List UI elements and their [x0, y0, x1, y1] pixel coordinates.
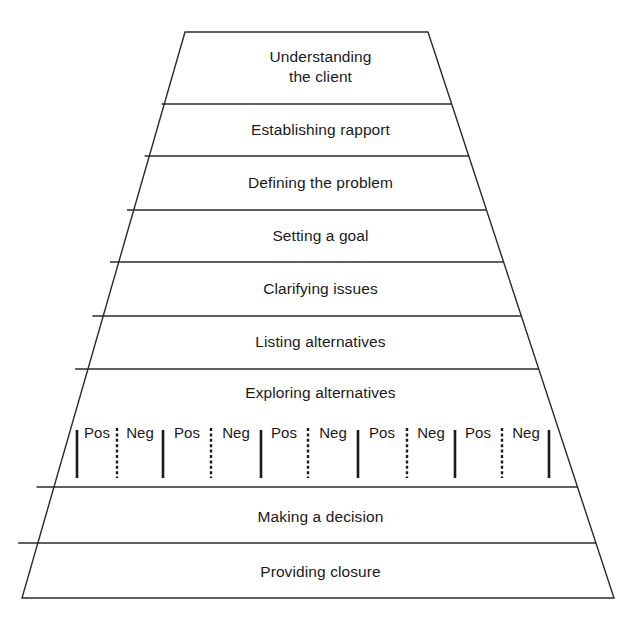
- funnel-diagram: [0, 0, 641, 631]
- neg-label: Neg: [222, 424, 250, 442]
- pos-label: Pos: [465, 424, 491, 442]
- pos-label: Pos: [271, 424, 297, 442]
- neg-label: Neg: [417, 424, 445, 442]
- pos-label: Pos: [174, 424, 200, 442]
- pos-label: Pos: [84, 424, 110, 442]
- stage-setting-a-goal: Setting a goal: [0, 226, 641, 246]
- stage-understanding-the-client: Understanding the client: [0, 47, 641, 87]
- pos-label: Pos: [369, 424, 395, 442]
- stage-providing-closure: Providing closure: [0, 562, 641, 582]
- stage-clarifying-issues: Clarifying issues: [0, 279, 641, 299]
- neg-label: Neg: [319, 424, 347, 442]
- stage-establishing-rapport: Establishing rapport: [0, 120, 641, 140]
- stage-making-a-decision: Making a decision: [0, 507, 641, 527]
- stage-defining-the-problem: Defining the problem: [0, 173, 641, 193]
- stage-listing-alternatives: Listing alternatives: [0, 332, 641, 352]
- stage-exploring-alternatives: Exploring alternatives: [0, 383, 641, 403]
- neg-label: Neg: [126, 424, 154, 442]
- neg-label: Neg: [512, 424, 540, 442]
